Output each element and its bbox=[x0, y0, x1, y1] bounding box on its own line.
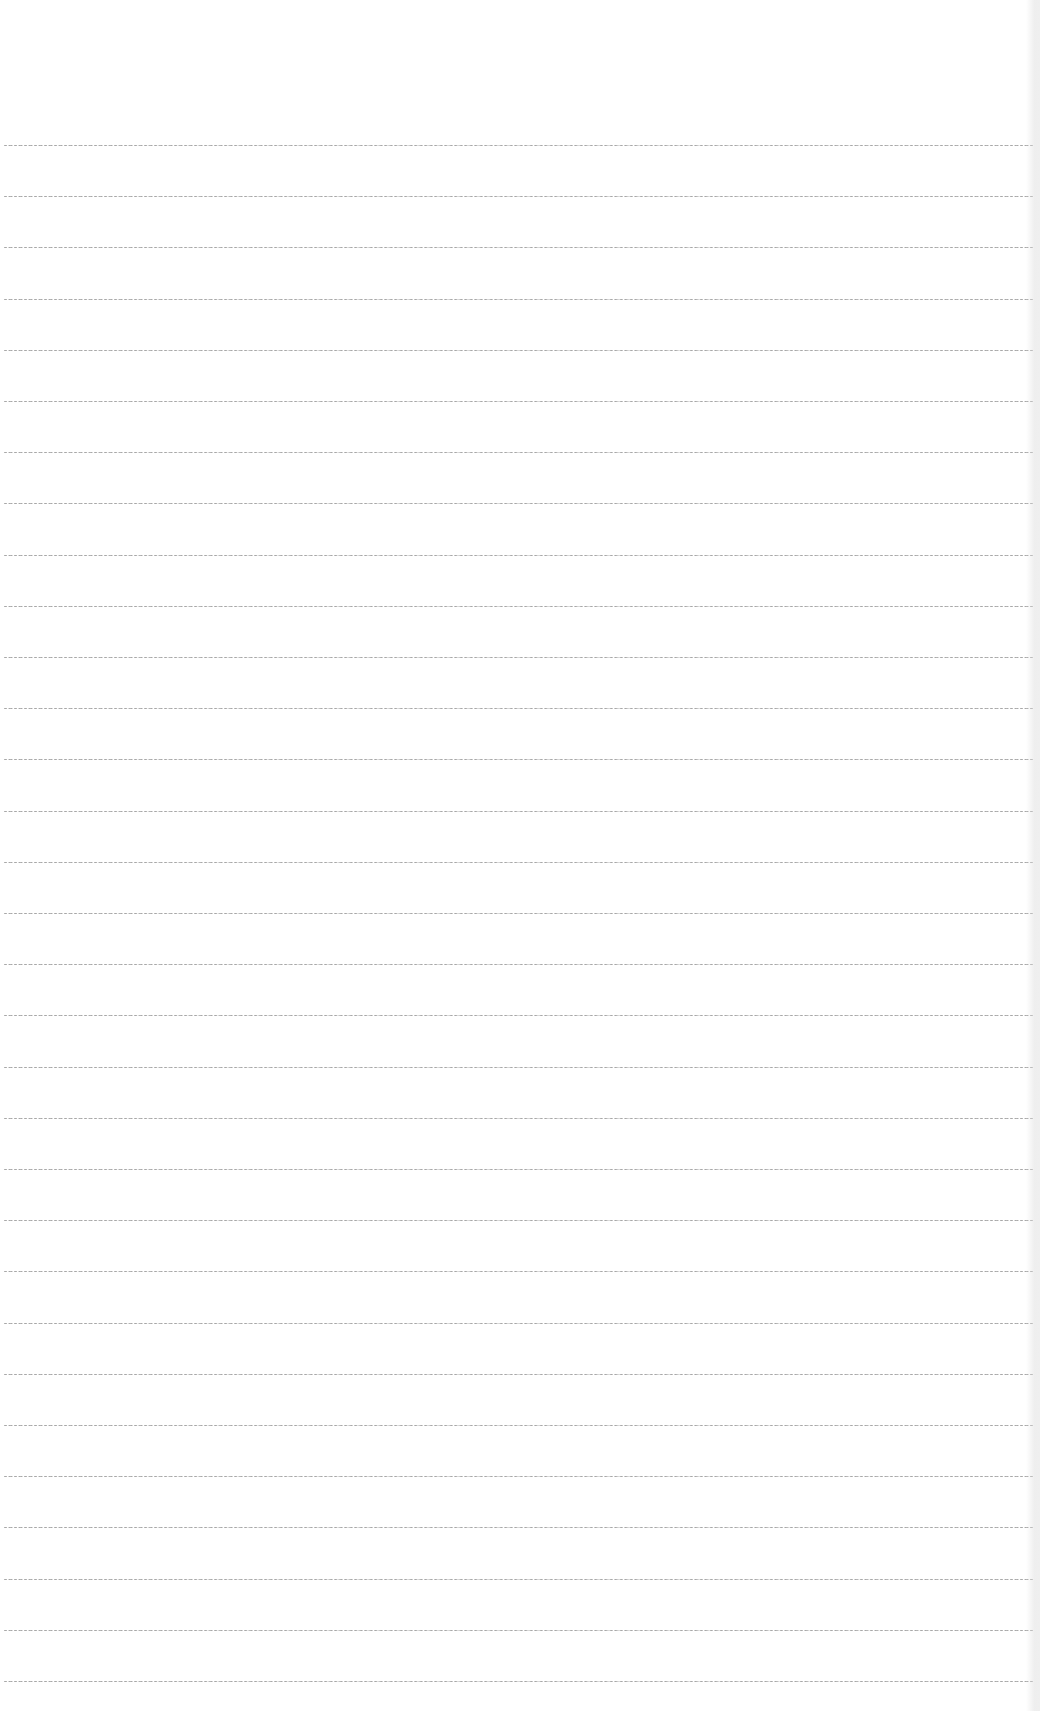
ruled-line bbox=[4, 1067, 1033, 1068]
ruled-line bbox=[4, 913, 1033, 914]
ruled-line bbox=[4, 401, 1033, 402]
ruled-line bbox=[4, 196, 1033, 197]
ruled-line bbox=[4, 299, 1033, 300]
ruled-line bbox=[4, 145, 1033, 146]
ruled-line bbox=[4, 350, 1033, 351]
ruled-line bbox=[4, 862, 1033, 863]
ruled-line bbox=[4, 503, 1033, 504]
lined-paper-page bbox=[0, 0, 1040, 1711]
ruled-line bbox=[4, 452, 1033, 453]
ruled-line bbox=[4, 1015, 1033, 1016]
ruled-line bbox=[4, 247, 1033, 248]
ruled-line bbox=[4, 1630, 1033, 1631]
ruled-line bbox=[4, 555, 1033, 556]
ruled-line bbox=[4, 1476, 1033, 1477]
page-edge-shadow bbox=[1026, 0, 1040, 1711]
ruled-line bbox=[4, 964, 1033, 965]
ruled-line bbox=[4, 1681, 1033, 1682]
ruled-line bbox=[4, 708, 1033, 709]
ruled-line bbox=[4, 1323, 1033, 1324]
ruled-line bbox=[4, 657, 1033, 658]
ruled-line bbox=[4, 1374, 1033, 1375]
ruled-line bbox=[4, 1425, 1033, 1426]
ruled-line bbox=[4, 759, 1033, 760]
ruled-line bbox=[4, 1271, 1033, 1272]
ruled-line bbox=[4, 1579, 1033, 1580]
ruled-line bbox=[4, 811, 1033, 812]
ruled-line bbox=[4, 1220, 1033, 1221]
ruled-line bbox=[4, 1118, 1033, 1119]
ruled-line bbox=[4, 606, 1033, 607]
ruled-line bbox=[4, 1169, 1033, 1170]
ruled-line bbox=[4, 1527, 1033, 1528]
